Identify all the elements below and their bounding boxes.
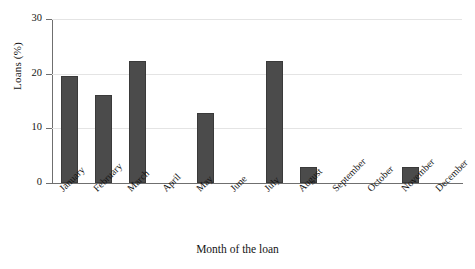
y-tick-label: 30	[32, 12, 43, 23]
y-tick-label: 20	[32, 67, 43, 78]
plot-area	[52, 19, 462, 183]
y-axis-tick: 0	[46, 183, 52, 184]
y-tick-mark	[46, 19, 52, 20]
gridline	[52, 74, 462, 75]
bar	[129, 61, 146, 183]
y-axis-tick: 20	[46, 74, 52, 75]
y-tick-label: 10	[32, 121, 43, 132]
y-axis-tick: 10	[46, 128, 52, 129]
x-axis-title: Month of the loan	[0, 243, 475, 255]
y-axis-title: Loans (%)	[11, 11, 23, 121]
y-tick-mark	[46, 74, 52, 75]
y-tick-mark	[46, 183, 52, 184]
gridline	[52, 128, 462, 129]
bar	[266, 61, 283, 183]
bar-chart: Loans (%) 0102030 JanuaryFebruaryMarchAp…	[0, 0, 475, 269]
y-axis-tick: 30	[46, 19, 52, 20]
gridline	[52, 19, 462, 20]
y-tick-mark	[46, 128, 52, 129]
y-tick-label: 0	[37, 176, 42, 187]
